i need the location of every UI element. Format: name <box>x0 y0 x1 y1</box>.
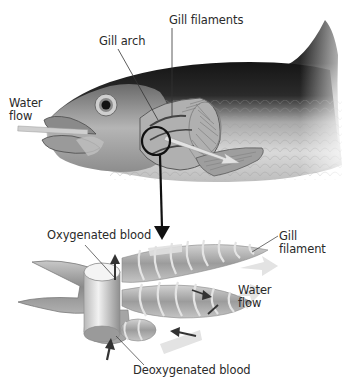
gill-filament-middle <box>122 282 252 318</box>
gill-filament-upper <box>122 240 268 282</box>
label-deoxygenated-blood: Deoxygenated blood <box>133 364 251 377</box>
label-water-flow-top: Water flow <box>9 97 43 123</box>
label-filament-line2: filament <box>279 243 326 256</box>
label-water-flow-detail: Water flow <box>238 284 272 310</box>
diagram-illustration <box>0 0 358 379</box>
label-flow-line2: flow <box>9 110 43 123</box>
gill-filament-lower <box>120 319 156 341</box>
label-gill-filaments: Gill filaments <box>169 14 243 27</box>
gill-diagram: Water flow Gill arch Gill filaments Oxyg… <box>0 0 358 379</box>
label-oxygenated-blood: Oxygenated blood <box>47 229 151 242</box>
label-gill-arch: Gill arch <box>99 35 145 48</box>
fish-body <box>42 15 358 185</box>
label-flow-line2: flow <box>238 297 272 310</box>
label-gill-filament: Gill filament <box>279 230 326 256</box>
